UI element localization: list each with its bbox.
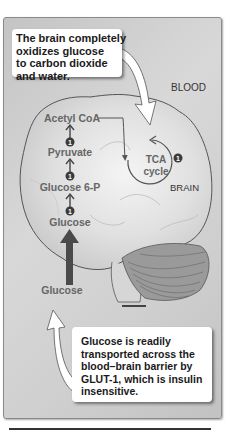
callout-line: Glucose is readily xyxy=(81,335,212,348)
svg-text:1: 1 xyxy=(68,173,72,180)
svg-text:1: 1 xyxy=(68,208,72,215)
acetyl-coa-label: Acetyl CoA xyxy=(44,112,100,124)
callout-line: oxidizes glucose xyxy=(16,45,122,58)
top-callout: The brain completely oxidizes glucose to… xyxy=(12,29,122,77)
callout-line: blood–brain barrier by xyxy=(81,360,212,373)
svg-text:1: 1 xyxy=(68,139,72,146)
glucose-6p-label: Glucose 6-P xyxy=(40,181,101,193)
tca-label: TCA xyxy=(146,154,167,165)
callout-line: GLUT-1, which is insulin xyxy=(81,373,212,386)
pyruvate-label: Pyruvate xyxy=(48,146,92,158)
blood-label: BLOOD xyxy=(171,82,206,93)
callout-line: insensitive. xyxy=(81,385,212,398)
callout-line: transported across the xyxy=(81,348,212,361)
glucose-blood-label: Glucose xyxy=(41,284,82,296)
callout-line: and water. xyxy=(16,70,122,83)
divider-rule xyxy=(9,428,211,430)
svg-text:1: 1 xyxy=(176,155,180,162)
cycle-label: cycle xyxy=(143,166,168,177)
glucose-brain-label: Glucose xyxy=(49,216,90,228)
callout-line: The brain completely xyxy=(16,32,122,45)
bottom-callout: Glucose is readily transported across th… xyxy=(72,327,212,402)
brain-label: BRAIN xyxy=(170,182,199,193)
callout-line: to carbon dioxide xyxy=(16,57,122,70)
